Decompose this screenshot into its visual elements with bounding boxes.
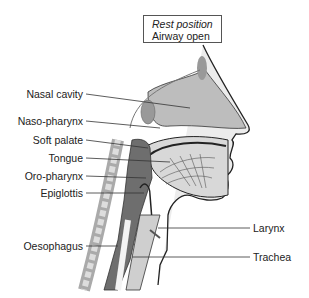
label-oesophagus: Oesophagus (23, 240, 83, 252)
label-epiglottis: Epiglottis (40, 187, 83, 199)
sphenoid-sinus (141, 100, 155, 124)
label-naso-pharynx: Naso-pharynx (18, 115, 83, 127)
caption-line-2: Airway open (152, 30, 221, 42)
label-oro-pharynx: Oro-pharynx (25, 170, 83, 182)
label-soft-palate: Soft palate (33, 134, 83, 146)
label-trachea: Trachea (253, 251, 291, 263)
airway-anatomy-diagram: Rest position Airway open Nasal cavity N… (0, 0, 309, 298)
frontal-sinus (197, 56, 207, 80)
label-larynx: Larynx (253, 222, 285, 234)
label-tongue: Tongue (49, 152, 83, 164)
label-nasal-cavity: Nasal cavity (26, 88, 83, 100)
caption-box: Rest position Airway open (143, 15, 222, 43)
tongue-region (140, 137, 228, 198)
caption-line-1: Rest position (152, 18, 221, 30)
